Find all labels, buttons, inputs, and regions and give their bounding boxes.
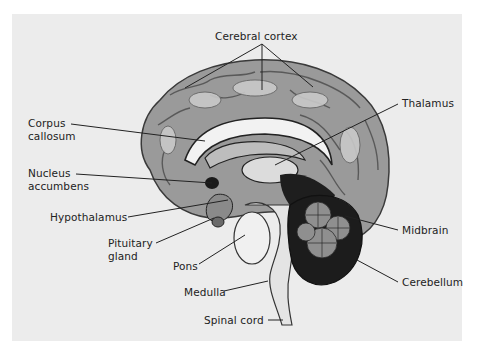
label-medulla: Medulla xyxy=(184,286,226,299)
label-cerebral-cortex: Cerebral cortex xyxy=(215,30,298,43)
label-text: Cerebral cortex xyxy=(215,30,298,43)
label-text: Pons xyxy=(173,260,198,273)
label-cerebellum: Cerebellum xyxy=(402,276,463,289)
label-text: Medulla xyxy=(184,286,226,299)
label-nucleus-accumbens: Nucleus accumbens xyxy=(28,167,89,193)
label-corpus-callosum: Corpus callosum xyxy=(28,117,76,143)
label-text: Spinal cord xyxy=(204,314,264,327)
label-text: Hypothalamus xyxy=(50,211,127,224)
label-hypothalamus: Hypothalamus xyxy=(50,211,127,224)
label-spinal-cord: Spinal cord xyxy=(204,314,264,327)
label-pituitary-gland: Pituitary gland xyxy=(108,237,153,263)
label-text: Corpus xyxy=(28,117,76,130)
label-midbrain: Midbrain xyxy=(402,224,448,237)
label-text: Pituitary xyxy=(108,237,153,250)
label-thalamus: Thalamus xyxy=(402,97,454,110)
label-text: Thalamus xyxy=(402,97,454,110)
label-pons: Pons xyxy=(173,260,198,273)
label-text: accumbens xyxy=(28,180,89,193)
label-text: gland xyxy=(108,250,153,263)
label-text: callosum xyxy=(28,130,76,143)
label-text: Cerebellum xyxy=(402,276,463,289)
label-text: Nucleus xyxy=(28,167,89,180)
label-text: Midbrain xyxy=(402,224,448,237)
